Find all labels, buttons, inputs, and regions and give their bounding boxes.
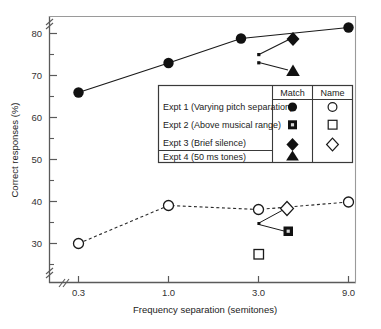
expt4-match-filled-triangle: [286, 65, 300, 77]
x-tick-label-0-3: 0.3: [72, 287, 85, 298]
x-axis-ticks: [79, 276, 349, 283]
upper-leader-lines: [257, 40, 288, 70]
figure-container: 80 70 60 50 40 30 0.3 1.0 3.0 9.0 Freque…: [0, 0, 381, 329]
legend-header-name: Name: [320, 88, 344, 98]
y-tick-label-70: 70: [31, 70, 42, 81]
legend-label-expt2: Expt 2 (Above musical range): [163, 120, 281, 130]
y-tick-label-50: 50: [31, 154, 42, 165]
y-axis-title: Correct responses (%): [9, 102, 20, 197]
chart-legend: Match Name Expt 1 (Varying pitch separat…: [159, 86, 353, 163]
name-curve-line: [79, 202, 349, 244]
y-tick-label-30: 30: [31, 238, 42, 249]
legend-marker-expt2-match-square-inner: [291, 123, 294, 126]
legend-marker-expt1-match-filled-circle: [288, 102, 297, 111]
match-point-9-0: [343, 22, 353, 32]
name-point-9-0: [344, 197, 354, 207]
expt2-match-square-inner-highlight: [287, 230, 290, 233]
leader-to-filled-triangle: [259, 63, 288, 71]
series-name-expt1: [74, 197, 354, 249]
legend-marker-expt1-name-open-circle: [328, 103, 337, 112]
legend-label-expt4: Expt 4 (50 ms tones): [163, 152, 246, 162]
y-tick-label-60: 60: [31, 112, 42, 123]
leader-anchor-lower: [257, 222, 260, 225]
legend-header-match: Match: [280, 88, 305, 98]
expt2-name-open-square: [254, 250, 264, 260]
frequency-separation-scatter-chart: 80 70 60 50 40 30 0.3 1.0 3.0 9.0 Freque…: [0, 0, 381, 329]
match-point-2-45: [236, 33, 246, 43]
match-curve-line: [79, 28, 349, 93]
y-tick-label-40: 40: [31, 196, 42, 207]
match-point-1-0: [163, 58, 173, 68]
name-point-3-0: [254, 205, 264, 215]
x-axis-title: Frequency separation (semitones): [133, 304, 277, 315]
y-tick-label-80: 80: [31, 28, 42, 39]
name-point-1-0: [164, 201, 174, 211]
x-tick-label-1-0: 1.0: [162, 287, 175, 298]
x-tick-label-3-0: 3.0: [252, 287, 265, 298]
leader-anchor-upper-a: [257, 53, 260, 56]
legend-marker-expt2-name-open-square: [328, 120, 337, 129]
match-point-0-3: [73, 87, 83, 97]
legend-label-expt1: Expt 1 (Varying pitch separation): [163, 102, 293, 112]
leader-anchor-upper-b: [257, 61, 260, 64]
legend-label-expt3: Expt 3 (Brief silence): [163, 138, 246, 148]
leader-to-filled-square: [259, 225, 284, 232]
x-tick-label-9-0: 9.0: [342, 287, 355, 298]
expt3-name-open-diamond: [281, 202, 294, 216]
y-axis-ticks: [50, 34, 58, 265]
leader-to-filled-diamond: [259, 40, 288, 55]
name-point-0-3: [74, 239, 84, 249]
